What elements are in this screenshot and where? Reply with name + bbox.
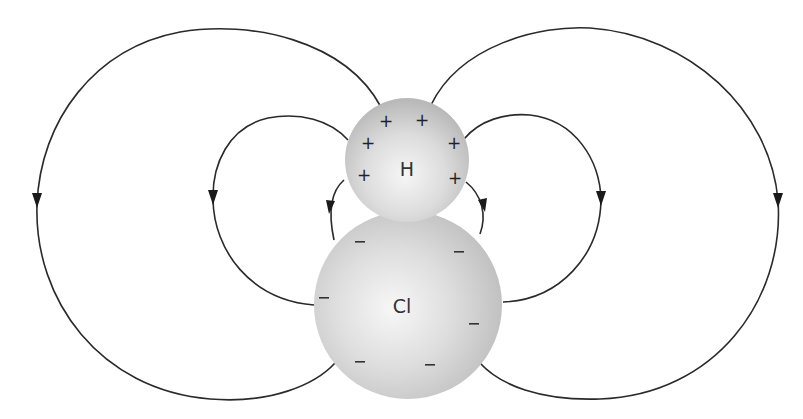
minus-charge-icon [454, 251, 464, 253]
cl-label: Cl [393, 295, 412, 317]
plus-charge-icon: + [415, 110, 429, 130]
minus-charge-icon [319, 297, 329, 299]
minus-charge-icon [355, 361, 365, 363]
atom-cl: Cl [314, 211, 502, 399]
field-line-short-right [466, 182, 483, 234]
arrow-down-icon [596, 191, 606, 206]
plus-charge-icon: + [448, 168, 462, 188]
h-label: H [400, 158, 414, 180]
arrow-down-icon [773, 193, 783, 208]
hcl-field-diagram: Cl H + + + + + + [0, 0, 803, 419]
plus-charge-icon: + [361, 133, 375, 153]
arrow-down-icon [208, 190, 218, 205]
arrow-down-icon [32, 193, 42, 208]
minus-charge-icon [355, 241, 365, 243]
plus-charge-icon: + [447, 133, 461, 153]
minus-charge-icon [469, 323, 479, 325]
plus-charge-icon: + [357, 165, 371, 185]
field-line-short-left [331, 180, 344, 240]
atom-h: H + + + + + + [345, 98, 469, 222]
minus-charge-icon [425, 364, 435, 366]
plus-charge-icon: + [379, 111, 393, 131]
